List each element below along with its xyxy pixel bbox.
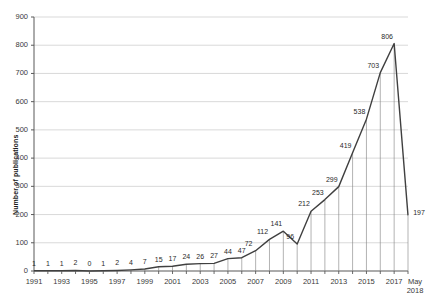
y-tick-label: 100 — [2, 238, 28, 247]
x-tick-label: May2018 — [398, 277, 430, 295]
x-tick-label-line1: May — [398, 277, 430, 286]
data-point-label: 1 — [60, 260, 64, 267]
data-point-label: 538 — [354, 108, 366, 115]
data-point-label: 0 — [87, 260, 91, 267]
y-tick-label: 900 — [2, 12, 28, 21]
data-point-label: 112 — [257, 228, 268, 235]
data-point-label: 197 — [413, 209, 425, 216]
data-point-label: 1 — [46, 260, 50, 267]
y-tick-label: 200 — [2, 210, 28, 219]
y-tick-label: 800 — [2, 40, 28, 49]
data-point-label: 96 — [286, 233, 294, 240]
data-point-label: 72 — [245, 240, 253, 247]
data-point-label: 27 — [210, 252, 218, 259]
data-point-label: 1 — [101, 260, 105, 267]
data-point-label: 4 — [129, 259, 133, 266]
data-point-label: 15 — [155, 256, 163, 263]
data-series-line — [34, 44, 408, 271]
data-point-label: 17 — [169, 255, 177, 262]
y-tick-label: 400 — [2, 153, 28, 162]
data-point-label: 212 — [298, 200, 310, 207]
data-point-label: 44 — [224, 248, 232, 255]
x-tick-label-line2: 2018 — [398, 286, 430, 295]
data-point-label: 299 — [326, 176, 338, 183]
y-axis-title: Number of publications — [12, 135, 19, 215]
data-point-label: 24 — [182, 253, 190, 260]
y-tick-label: 0 — [2, 266, 28, 275]
y-tick-label: 600 — [2, 97, 28, 106]
data-point-label: 7 — [143, 258, 147, 265]
y-tick-label: 500 — [2, 125, 28, 134]
data-point-label: 2 — [115, 259, 119, 266]
data-point-label: 141 — [270, 220, 282, 227]
data-point-label: 47 — [238, 247, 246, 254]
data-point-label: 26 — [196, 253, 204, 260]
y-tick-label: 700 — [2, 68, 28, 77]
data-point-label: 419 — [340, 142, 352, 149]
data-point-label: 253 — [312, 189, 324, 196]
data-point-label: 806 — [381, 33, 393, 40]
data-point-label: 703 — [367, 62, 379, 69]
data-point-label: 1 — [32, 260, 36, 267]
y-tick-label: 300 — [2, 181, 28, 190]
data-point-label: 2 — [74, 259, 78, 266]
